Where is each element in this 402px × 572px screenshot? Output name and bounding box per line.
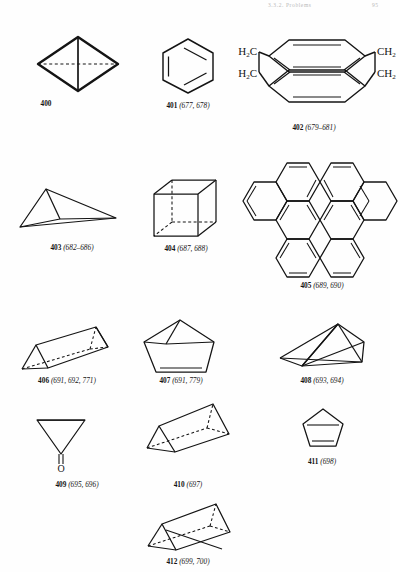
caption-412-refs: (699, 700)	[179, 557, 209, 566]
caption-405: 405 (689, 690)	[232, 281, 402, 290]
caption-407-number: 407	[159, 376, 170, 385]
caption-405-number: 405	[300, 281, 311, 290]
caption-405-refs: (689, 690)	[313, 281, 343, 290]
caption-404: 404 (687, 688)	[96, 244, 276, 253]
caption-403-number: 403	[50, 243, 61, 252]
running-head-title: 3.3.2. Problems	[268, 2, 312, 8]
cube-diagram	[150, 176, 222, 242]
caption-410-refs: (697)	[186, 480, 202, 489]
caption-412-number: 412	[166, 557, 177, 566]
caption-408-number: 408	[300, 376, 311, 385]
svg-text:H2C: H2C	[238, 67, 257, 81]
structure-405	[259, 158, 381, 272]
caption-402-number: 402	[292, 123, 303, 132]
structure-409: O	[33, 414, 89, 470]
caption-407-refs: (691, 779)	[172, 376, 202, 385]
caption-401-refs: (677, 678)	[179, 101, 209, 110]
caption-412: 412 (699, 700)	[98, 557, 278, 566]
tilted-prism-diagram	[145, 400, 233, 456]
prism-double-bond-diagram	[146, 500, 236, 556]
running-header: 3.3.2. Problems 95	[0, 0, 390, 12]
caption-406-number: 406	[38, 376, 49, 385]
caption-411-number: 411	[308, 457, 319, 466]
caption-400-number: 400	[41, 99, 52, 108]
cyclophane-diagram: H2C H2C CH2 CH2	[247, 24, 387, 118]
caption-402: 402 (679–681)	[224, 123, 402, 132]
caption-401-number: 401	[166, 101, 177, 110]
caption-404-refs: (687, 688)	[177, 244, 207, 253]
housane-diagram	[138, 316, 224, 376]
caption-408: 408 (693, 694)	[232, 376, 402, 385]
structure-403	[16, 183, 122, 235]
wedge-prism-diagram	[276, 322, 374, 374]
prism-diagram	[18, 325, 114, 375]
page-number: 95	[372, 2, 379, 8]
tetrahedron-diagram	[32, 33, 124, 95]
caption-406-refs: (691, 692, 771)	[51, 376, 96, 385]
caption-410-number: 410	[174, 480, 185, 489]
benzene-diagram	[159, 36, 217, 96]
svg-text:H2C: H2C	[238, 45, 257, 59]
caption-409-number: 409	[55, 480, 66, 489]
caption-410: 410 (697)	[98, 480, 278, 489]
structure-404	[150, 176, 222, 242]
caption-409-refs: (695, 696)	[68, 480, 98, 489]
caption-402-refs: (679–681)	[305, 123, 335, 132]
structure-412	[146, 500, 236, 556]
cone-ketone-diagram: O	[33, 414, 89, 470]
structure-400	[32, 33, 124, 95]
caption-408-refs: (693, 694)	[313, 376, 343, 385]
flat-tetrahedron-diagram	[16, 183, 122, 235]
svg-text:CH2: CH2	[377, 45, 396, 59]
structure-411	[299, 406, 347, 452]
caption-411: 411 (698)	[232, 457, 402, 466]
svg-text:CH2: CH2	[377, 67, 396, 81]
cyclopentadiene-diagram	[299, 406, 347, 452]
caption-411-refs: (698)	[320, 457, 336, 466]
caption-404-number: 404	[164, 244, 175, 253]
structure-406	[18, 325, 114, 375]
helicene-diagram	[259, 158, 381, 272]
structure-410	[145, 400, 233, 456]
structure-408	[276, 322, 374, 374]
structure-407	[138, 316, 224, 376]
svg-text:O: O	[57, 463, 64, 474]
caption-403-refs: (682–686)	[63, 243, 93, 252]
structure-401	[159, 36, 217, 96]
structure-402: H2C H2C CH2 CH2	[247, 24, 387, 118]
